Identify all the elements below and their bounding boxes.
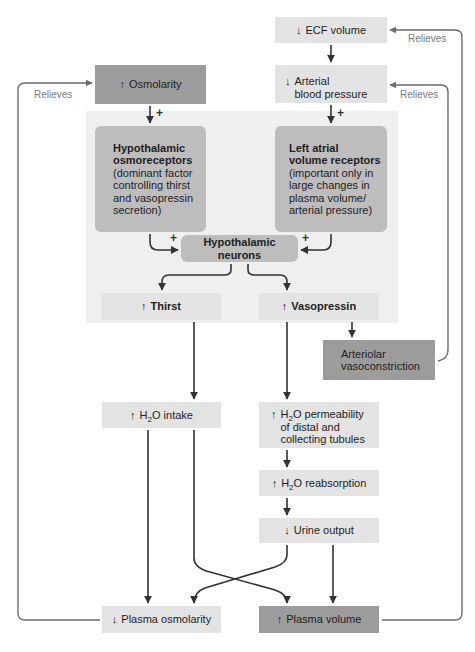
node-title-line2: volume receptors: [289, 154, 381, 167]
node-arteriolar-vasoconstriction: Arteriolar vasoconstriction: [323, 340, 435, 380]
node-desc-line3: plasma volume/: [289, 192, 381, 205]
node-title-line1: Left atrial: [289, 142, 381, 155]
node-arterial-blood-pressure: ↓ Arterial blood pressure: [275, 65, 387, 103]
down-arrow-icon: ↓: [285, 75, 291, 88]
node-label-line2: vasoconstriction: [341, 360, 420, 373]
node-label: Vasopressin: [291, 300, 356, 313]
node-label-line1: Arteriolar: [341, 348, 420, 361]
up-arrow-icon: ↑: [141, 300, 147, 313]
up-arrow-icon: ↑: [119, 78, 125, 91]
node-label: Urine output: [294, 524, 354, 537]
node-h2o-reabsorption: ↑ H2O reabsorption: [259, 470, 379, 496]
up-arrow-icon: ↑: [282, 300, 288, 313]
node-label: Osmolarity: [129, 78, 182, 91]
node-vasopressin: ↑ Vasopressin: [259, 293, 379, 320]
node-desc-line2: controlling thirst: [113, 179, 193, 192]
node-label: H2O intake: [140, 409, 193, 422]
node-label-line1: Arterial: [295, 75, 368, 88]
plus-sign-atrial: +: [302, 231, 309, 245]
up-arrow-icon: ↑: [277, 613, 283, 626]
node-label-line2: of distal and: [281, 421, 365, 434]
node-osmolarity: ↑ Osmolarity: [95, 65, 206, 104]
relieves-label-ecf: Relieves: [408, 33, 446, 44]
down-arrow-icon: ↓: [284, 524, 290, 537]
up-arrow-icon: ↑: [271, 408, 277, 421]
node-label: Hypothalamic neurons: [181, 236, 298, 261]
node-label: H2O reabsorption: [281, 477, 366, 490]
node-hypothalamic-neurons: Hypothalamic neurons: [181, 235, 298, 262]
relieves-label-bp: Relieves: [400, 89, 438, 100]
plus-sign-osmolarity: +: [156, 106, 163, 120]
node-desc-line4: secretion): [113, 204, 193, 217]
node-desc-line1: (dominant factor: [113, 167, 193, 180]
node-label: Plasma osmolarity: [121, 613, 211, 626]
node-label: Plasma volume: [286, 613, 361, 626]
node-thirst: ↑ Thirst: [101, 293, 221, 320]
node-urine-output: ↓ Urine output: [259, 518, 379, 543]
node-hypothalamic-osmoreceptors: Hypothalamic osmoreceptors (dominant fac…: [95, 126, 206, 232]
node-desc-line2: large changes in: [289, 179, 381, 192]
node-desc-line4: arterial pressure): [289, 204, 381, 217]
up-arrow-icon: ↑: [272, 477, 278, 490]
node-plasma-volume: ↑ Plasma volume: [259, 606, 379, 633]
node-desc-line1: (important only in: [289, 167, 381, 180]
node-h2o-intake: ↑ H2O intake: [102, 402, 221, 428]
node-left-atrial-volume-receptors: Left atrial volume receptors (important …: [275, 126, 387, 232]
relieves-label-osmolarity: Relieves: [34, 89, 72, 100]
node-title-line2: osmoreceptors: [113, 154, 193, 167]
node-label-line1: H2O permeability: [281, 408, 365, 421]
node-title-line1: Hypothalamic: [113, 142, 193, 155]
node-label-line3: collecting tubules: [281, 433, 365, 446]
down-arrow-icon: ↓: [296, 24, 302, 37]
up-arrow-icon: ↑: [130, 409, 136, 422]
node-h2o-permeability: ↑ H2O permeability of distal and collect…: [259, 402, 379, 448]
node-label: Thirst: [150, 300, 181, 313]
node-label-line2: blood pressure: [295, 88, 368, 101]
plus-sign-arterial: +: [337, 106, 344, 120]
node-label: ECF volume: [305, 24, 366, 37]
node-plasma-osmolarity: ↓ Plasma osmolarity: [102, 606, 221, 633]
plus-sign-osmoreceptors: +: [170, 231, 177, 245]
node-ecf-volume: ↓ ECF volume: [275, 17, 387, 43]
down-arrow-icon: ↓: [112, 613, 118, 626]
node-desc-line3: and vasopressin: [113, 192, 193, 205]
